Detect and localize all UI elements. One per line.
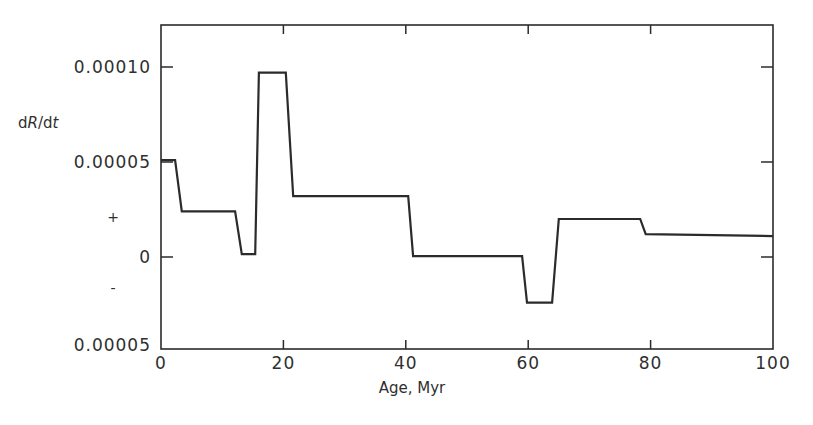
x-tick-label: 40 [394,353,418,373]
chart: 020406080100 0.0000500.000050.00010 Age,… [0,0,813,425]
plot-frame [161,25,773,349]
x-tick-label: 80 [639,353,663,373]
y-axis-ticks: 0.0000500.000050.00010 [74,57,773,355]
x-tick-label: 20 [272,353,296,373]
positive-sign-label: + [107,209,119,225]
x-tick-label: 0 [155,353,167,373]
data-line [161,73,773,303]
x-tick-label: 100 [755,353,790,373]
y-tick-label: 0.00005 [74,152,151,172]
x-tick-label: 60 [516,353,540,373]
x-axis-ticks: 020406080100 [155,25,791,373]
negative-sign-label: - [110,280,115,296]
y-axis-label: dR/dt [18,114,60,132]
y-tick-label: 0.00010 [74,57,151,77]
y-tick-label: 0 [139,247,151,267]
y-tick-label: 0.00005 [74,335,151,355]
x-axis-label: Age, Myr [379,379,446,397]
